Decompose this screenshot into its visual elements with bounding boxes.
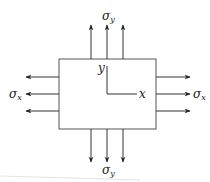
diagram-canvas: σy σy σx σx y x — [0, 0, 210, 182]
axis-x-label: x — [139, 87, 146, 101]
stress-element-diagram: σy σy σx σx y x — [0, 0, 210, 182]
right-stress-arrows — [156, 77, 190, 111]
sigma-y-top-label: σy — [102, 9, 115, 24]
axis-y-label: y — [97, 61, 105, 75]
faint-edge-line — [0, 176, 140, 180]
bottom-stress-arrows — [91, 129, 123, 162]
sigma-y-bottom-label: σy — [102, 163, 115, 178]
sigma-x-right-label: σx — [193, 87, 206, 102]
sigma-x-left-label: σx — [9, 87, 22, 102]
coordinate-axes — [107, 66, 137, 94]
top-stress-arrows — [91, 25, 123, 59]
left-stress-arrows — [26, 77, 59, 111]
